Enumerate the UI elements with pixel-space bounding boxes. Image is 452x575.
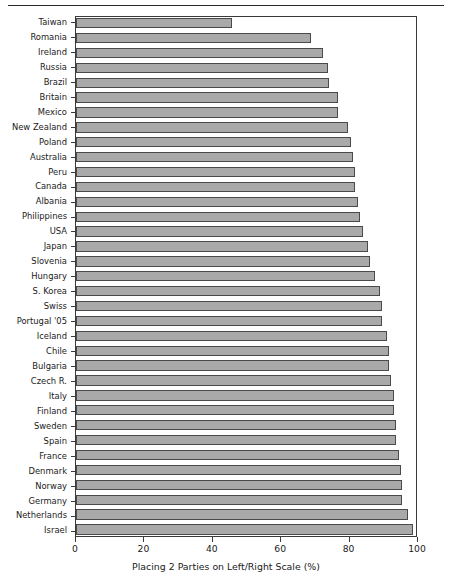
x-axis-tick-label: 100 xyxy=(408,543,426,554)
y-axis-label: Brazil xyxy=(0,77,71,87)
bar-row xyxy=(76,78,416,88)
y-axis-label: Italy xyxy=(0,391,71,401)
bar xyxy=(76,137,351,147)
bar-row xyxy=(76,301,416,311)
y-axis-label: Philippines xyxy=(0,211,71,221)
y-axis-label: Romania xyxy=(0,32,71,42)
bar xyxy=(76,301,382,311)
y-axis-labels: TaiwanRomaniaIrelandRussiaBrazilBritainM… xyxy=(0,16,71,537)
bar xyxy=(76,316,382,326)
x-axis-tick xyxy=(417,537,418,542)
bar xyxy=(76,92,338,102)
bar-row xyxy=(76,122,416,132)
y-axis-label: Poland xyxy=(0,137,71,147)
bar-row xyxy=(76,63,416,73)
bar-row xyxy=(76,435,416,445)
x-axis-tick-label: 60 xyxy=(274,543,286,554)
y-axis-label: Mexico xyxy=(0,107,71,117)
bar-row xyxy=(76,524,416,534)
y-axis-label: Canada xyxy=(0,181,71,191)
bar-row xyxy=(76,495,416,505)
bar xyxy=(76,107,338,117)
bar xyxy=(76,480,402,490)
y-axis-label: Israel xyxy=(0,525,71,535)
bar-row xyxy=(76,48,416,58)
bar xyxy=(76,509,408,519)
x-axis-tick xyxy=(75,537,76,542)
plot-area xyxy=(75,16,417,537)
bar xyxy=(76,122,348,132)
bar xyxy=(76,241,368,251)
bar xyxy=(76,450,399,460)
bar xyxy=(76,495,402,505)
bar-row xyxy=(76,450,416,460)
x-axis-tick xyxy=(143,537,144,542)
bar-row xyxy=(76,212,416,222)
bar xyxy=(76,346,389,356)
page-top-rule xyxy=(8,5,444,6)
bar-row xyxy=(76,405,416,415)
y-axis-label: France xyxy=(0,451,71,461)
bar-row xyxy=(76,92,416,102)
bar-row xyxy=(76,152,416,162)
bar xyxy=(76,182,355,192)
bar xyxy=(76,152,353,162)
bar xyxy=(76,375,391,385)
bar xyxy=(76,420,396,430)
bar-row xyxy=(76,241,416,251)
bar-row xyxy=(76,286,416,296)
bar-row xyxy=(76,390,416,400)
y-axis-label: Spain xyxy=(0,436,71,446)
y-axis-label: Finland xyxy=(0,406,71,416)
bar xyxy=(76,18,232,28)
x-axis-tick-label: 80 xyxy=(343,543,355,554)
bar xyxy=(76,226,363,236)
bar-row xyxy=(76,226,416,236)
x-axis-tick-label: 40 xyxy=(206,543,218,554)
bar-row xyxy=(76,346,416,356)
y-axis-label: Russia xyxy=(0,62,71,72)
x-axis-tick xyxy=(280,537,281,542)
y-axis-label: S. Korea xyxy=(0,286,71,296)
bar-row xyxy=(76,465,416,475)
bar-row xyxy=(76,509,416,519)
bar-row xyxy=(76,316,416,326)
bar-row xyxy=(76,18,416,28)
y-axis-label: Chile xyxy=(0,346,71,356)
bar xyxy=(76,63,328,73)
chart-page: TaiwanRomaniaIrelandRussiaBrazilBritainM… xyxy=(0,0,452,575)
bar xyxy=(76,360,389,370)
bar xyxy=(76,167,355,177)
bar xyxy=(76,390,394,400)
x-axis-title: Placing 2 Parties on Left/Right Scale (%… xyxy=(0,561,452,572)
y-axis-label: Netherlands xyxy=(0,510,71,520)
bar-row xyxy=(76,197,416,207)
bar-row xyxy=(76,256,416,266)
y-axis-label: New Zealand xyxy=(0,122,71,132)
bar xyxy=(76,435,396,445)
y-axis-label: Czech R. xyxy=(0,376,71,386)
bar-row xyxy=(76,360,416,370)
x-axis-tick xyxy=(212,537,213,542)
y-axis-label: Hungary xyxy=(0,271,71,281)
y-axis-label: Albania xyxy=(0,196,71,206)
bar xyxy=(76,33,311,43)
bar-chart: TaiwanRomaniaIrelandRussiaBrazilBritainM… xyxy=(0,10,452,570)
y-axis-label: USA xyxy=(0,226,71,236)
bar-row xyxy=(76,33,416,43)
y-axis-label: Ireland xyxy=(0,47,71,57)
bar-row xyxy=(76,420,416,430)
y-axis-label: Portugal '05 xyxy=(0,316,71,326)
bar xyxy=(76,78,329,88)
y-axis-label: Peru xyxy=(0,167,71,177)
bar xyxy=(76,256,370,266)
bar xyxy=(76,212,360,222)
bar-row xyxy=(76,480,416,490)
x-axis-tick-label: 0 xyxy=(72,543,78,554)
y-axis-label: Britain xyxy=(0,92,71,102)
bar-row xyxy=(76,375,416,385)
y-axis-label: Sweden xyxy=(0,421,71,431)
y-axis-label: Australia xyxy=(0,152,71,162)
bar xyxy=(76,405,394,415)
bar-rows xyxy=(76,17,416,536)
